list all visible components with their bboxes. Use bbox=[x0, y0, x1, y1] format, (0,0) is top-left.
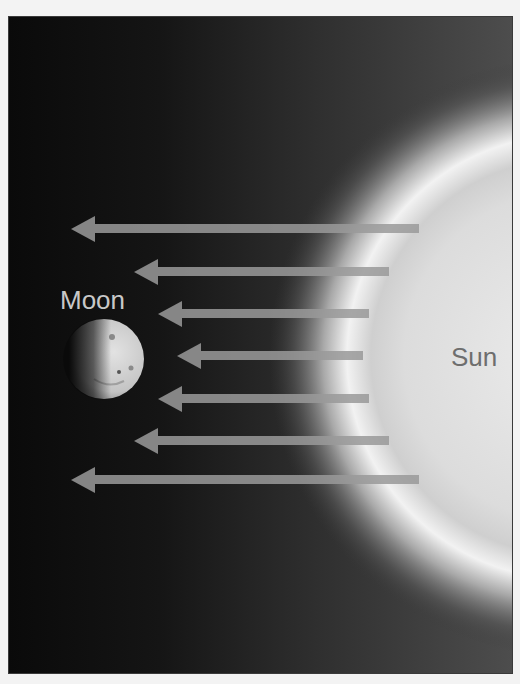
diagram-canvas bbox=[9, 17, 513, 674]
moon-icon bbox=[63, 318, 145, 400]
sun-label: Sun bbox=[451, 342, 497, 373]
diagram-frame: Moon Sun bbox=[8, 16, 513, 674]
moon-label: Moon bbox=[60, 285, 125, 316]
